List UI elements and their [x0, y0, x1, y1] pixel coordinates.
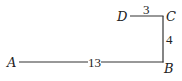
point-label-a: A	[6, 55, 16, 70]
length-label-cd: 3	[143, 2, 150, 17]
point-label-b: B	[163, 61, 174, 76]
point-label-c: C	[166, 9, 176, 24]
path-diagram: A B C D 13 4 3	[0, 0, 182, 81]
length-label-bc: 4	[166, 32, 173, 47]
length-label-ab: 13	[88, 55, 101, 70]
point-label-d: D	[116, 9, 128, 24]
